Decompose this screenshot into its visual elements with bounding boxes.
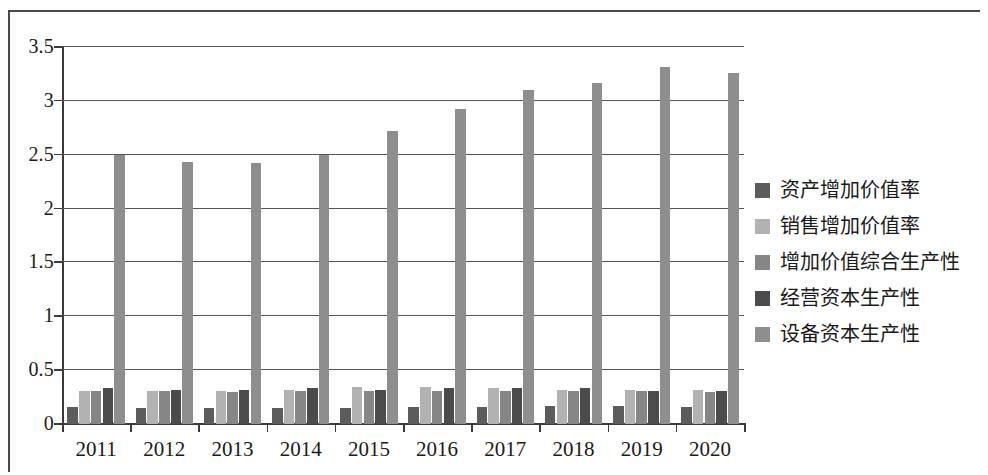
bar-group: [204, 46, 261, 424]
legend-item[interactable]: 增加价值综合生产性: [755, 244, 983, 280]
x-axis-tick-mark: [198, 423, 200, 432]
legend-label: 资产增加价值率: [780, 179, 920, 201]
bar[interactable]: [500, 391, 511, 424]
y-axis-tick-label: 0.5: [28, 359, 54, 379]
legend-label: 销售增加价值率: [780, 215, 920, 237]
legend-label: 经营资本生产性: [780, 287, 920, 309]
x-axis-label-2017: 2017: [471, 437, 539, 461]
legend-swatch-icon: [755, 183, 770, 198]
x-axis-label-2013: 2013: [198, 437, 266, 461]
y-axis-tick-label: 0: [44, 413, 54, 433]
bar[interactable]: [136, 408, 147, 424]
x-axis-label-2011: 2011: [62, 437, 130, 461]
y-axis-tick-label: 3.5: [28, 36, 54, 56]
bar-group: [67, 46, 124, 424]
bar-group: [545, 46, 602, 424]
bar[interactable]: [91, 391, 102, 424]
y-axis-tick-label: 1.5: [28, 251, 54, 271]
bar[interactable]: [523, 90, 534, 424]
x-axis-tick-mark: [539, 423, 541, 432]
bar[interactable]: [251, 163, 262, 424]
legend-label: 增加价值综合生产性: [780, 251, 960, 273]
bar[interactable]: [204, 408, 215, 424]
x-axis-tick-mark: [335, 423, 337, 432]
y-axis-tick-label: 2.5: [28, 144, 54, 164]
bar[interactable]: [545, 406, 556, 424]
legend-item[interactable]: 设备资本生产性: [755, 316, 983, 352]
x-axis-tick-mark: [62, 423, 64, 432]
bar[interactable]: [159, 391, 170, 424]
bar-groups: [62, 46, 744, 424]
bar[interactable]: [592, 83, 603, 424]
chart-legend: 资产增加价值率销售增加价值率增加价值综合生产性经营资本生产性设备资本生产性: [755, 172, 983, 352]
bar[interactable]: [103, 388, 114, 424]
bar[interactable]: [147, 391, 158, 424]
bar[interactable]: [557, 390, 568, 424]
bar[interactable]: [171, 390, 182, 424]
bar[interactable]: [613, 406, 624, 424]
x-axis-tick-mark: [130, 423, 132, 432]
x-axis-label-2014: 2014: [267, 437, 335, 461]
bar[interactable]: [444, 388, 455, 424]
bar[interactable]: [387, 131, 398, 424]
bar[interactable]: [728, 73, 739, 424]
bar-group: [408, 46, 465, 424]
bar[interactable]: [512, 388, 523, 424]
bar[interactable]: [340, 408, 351, 424]
bar[interactable]: [568, 391, 579, 424]
legend-item[interactable]: 资产增加价值率: [755, 172, 983, 208]
x-axis-tick-mark: [608, 423, 610, 432]
bar[interactable]: [477, 407, 488, 424]
legend-item[interactable]: 经营资本生产性: [755, 280, 983, 316]
y-axis-tick-label: 2: [44, 198, 54, 218]
bar[interactable]: [295, 391, 306, 424]
legend-swatch-icon: [755, 219, 770, 234]
bar[interactable]: [307, 388, 318, 424]
bar[interactable]: [79, 391, 90, 424]
x-axis-tick-mark: [403, 423, 405, 432]
bar[interactable]: [716, 391, 727, 424]
bar[interactable]: [705, 392, 716, 424]
bar-chart: 00.511.522.533.5 20112012201320142015201…: [0, 0, 760, 475]
bar[interactable]: [625, 390, 636, 424]
x-axis-tick-mark: [471, 423, 473, 432]
bar[interactable]: [432, 391, 443, 424]
y-axis-tick-label: 3: [44, 90, 54, 110]
x-axis-label-2012: 2012: [130, 437, 198, 461]
bar[interactable]: [182, 162, 193, 424]
bar[interactable]: [67, 407, 78, 424]
bar[interactable]: [375, 390, 386, 424]
x-axis-label-2018: 2018: [539, 437, 607, 461]
bar[interactable]: [114, 155, 125, 424]
x-axis-tick-mark: [744, 423, 746, 432]
bar[interactable]: [239, 390, 250, 424]
bar-group: [340, 46, 397, 424]
bar[interactable]: [681, 407, 692, 424]
bar-group: [681, 46, 738, 424]
bar[interactable]: [284, 390, 295, 424]
bar[interactable]: [408, 407, 419, 424]
x-axis-label-2019: 2019: [608, 437, 676, 461]
bar[interactable]: [272, 408, 283, 424]
bar[interactable]: [660, 67, 671, 424]
bar[interactable]: [580, 388, 591, 424]
legend-label: 设备资本生产性: [780, 323, 920, 345]
chart-page: 00.511.522.533.5 20112012201320142015201…: [0, 0, 988, 475]
bar[interactable]: [227, 392, 238, 424]
bar-group: [613, 46, 670, 424]
bar[interactable]: [319, 155, 330, 424]
legend-item[interactable]: 销售增加价值率: [755, 208, 983, 244]
bar[interactable]: [488, 388, 499, 424]
legend-swatch-icon: [755, 255, 770, 270]
bar[interactable]: [636, 391, 647, 424]
x-axis-tick-mark: [267, 423, 269, 432]
bar[interactable]: [693, 390, 704, 424]
bar[interactable]: [455, 109, 466, 424]
bar[interactable]: [364, 391, 375, 424]
bar[interactable]: [352, 387, 363, 424]
bar-group: [272, 46, 329, 424]
bar[interactable]: [648, 391, 659, 424]
bar[interactable]: [420, 387, 431, 424]
bar[interactable]: [216, 391, 227, 424]
bar-group: [136, 46, 193, 424]
